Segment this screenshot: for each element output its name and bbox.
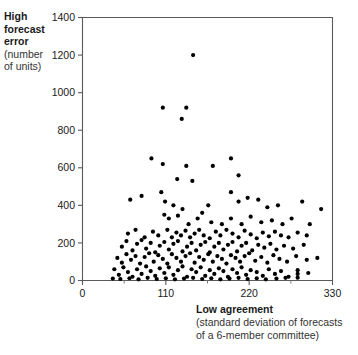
data-point: [176, 214, 180, 218]
data-point: [175, 177, 179, 181]
data-point: [191, 276, 195, 280]
data-point: [130, 248, 134, 252]
data-point: [224, 228, 228, 232]
data-point: [190, 179, 194, 183]
data-point: [156, 233, 160, 237]
data-point: [224, 261, 228, 265]
tick-marks: [78, 18, 333, 286]
data-point: [282, 244, 286, 248]
data-point: [146, 276, 150, 280]
data-point: [189, 267, 193, 271]
x-tick-label: 0: [80, 287, 86, 299]
data-point: [193, 231, 197, 235]
data-point: [163, 200, 167, 204]
data-point: [236, 235, 240, 239]
data-point: [126, 231, 130, 235]
data-point: [218, 277, 222, 281]
data-point: [230, 240, 234, 244]
data-point: [174, 231, 178, 235]
data-point: [220, 257, 224, 261]
data-point: [139, 238, 143, 242]
data-point: [197, 255, 201, 259]
data-point: [268, 242, 272, 246]
data-point: [158, 266, 162, 270]
data-point: [283, 276, 287, 280]
y-tick-label: 1400: [52, 11, 76, 23]
data-point: [296, 276, 300, 280]
data-point: [120, 245, 124, 249]
data-point: [279, 269, 283, 273]
data-point: [209, 220, 213, 224]
data-point: [155, 277, 159, 281]
data-point: [238, 260, 242, 264]
data-point: [280, 222, 284, 226]
data-point: [208, 268, 212, 272]
data-point: [158, 244, 162, 248]
data-point: [256, 198, 260, 202]
y-tick-label: 400: [57, 199, 75, 211]
data-point: [149, 269, 153, 273]
data-point: [271, 253, 275, 257]
data-point: [174, 256, 178, 260]
plot-area: 02004006008001000120014000110220330: [0, 0, 358, 355]
data-point: [249, 268, 253, 272]
data-point: [267, 234, 271, 238]
data-point: [161, 162, 165, 166]
data-point: [202, 233, 206, 237]
data-point: [212, 272, 216, 276]
data-point: [239, 244, 243, 248]
data-point: [221, 247, 225, 251]
data-point: [176, 268, 180, 272]
data-point: [277, 257, 281, 261]
data-point: [159, 190, 163, 194]
data-point: [139, 272, 143, 276]
data-point: [170, 235, 174, 239]
data-point: [229, 253, 233, 257]
data-point: [270, 218, 274, 222]
data-point: [121, 265, 125, 269]
data-point: [261, 231, 265, 235]
data-point: [197, 228, 201, 232]
data-point: [203, 240, 207, 244]
data-point: [151, 230, 155, 234]
data-point: [264, 277, 268, 281]
data-point: [227, 277, 231, 281]
y-tick-label: 0: [69, 274, 75, 286]
data-point: [124, 239, 128, 243]
data-point: [128, 198, 132, 202]
data-point: [300, 200, 304, 204]
data-point: [162, 240, 166, 244]
data-point: [211, 164, 215, 168]
data-point: [217, 266, 221, 270]
data-point: [259, 220, 263, 224]
data-point: [265, 205, 269, 209]
data-point: [306, 271, 310, 275]
data-point: [186, 222, 190, 226]
data-point: [171, 242, 175, 246]
plot-frame: [83, 18, 333, 281]
data-point: [171, 273, 175, 277]
data-point: [249, 232, 253, 236]
data-point: [291, 246, 295, 250]
data-point: [215, 254, 219, 258]
data-point: [136, 277, 140, 281]
data-point: [200, 211, 204, 215]
data-point: [199, 265, 203, 269]
data-point: [221, 269, 225, 273]
data-point: [244, 273, 248, 277]
data-point: [162, 271, 166, 275]
data-point: [135, 267, 139, 271]
data-point: [191, 53, 195, 57]
data-point: [256, 243, 260, 247]
data-point: [199, 243, 203, 247]
y-tick-label: 1200: [52, 49, 76, 61]
data-point: [255, 276, 259, 280]
data-point: [167, 265, 171, 269]
data-point: [184, 164, 188, 168]
data-point: [273, 272, 277, 276]
axes: [83, 18, 333, 281]
data-point: [167, 216, 171, 220]
data-point: [182, 277, 186, 281]
data-points: [111, 53, 324, 282]
data-point: [239, 265, 243, 269]
